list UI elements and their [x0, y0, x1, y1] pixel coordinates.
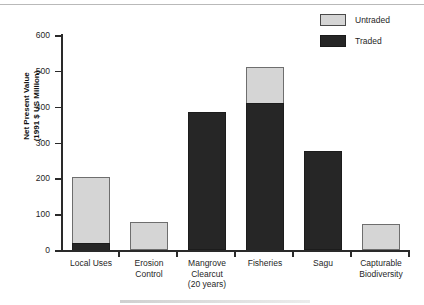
untraded-swatch-icon [320, 14, 346, 26]
chart-container: Untraded Traded Net Present Value (1991 … [0, 0, 424, 305]
x-axis-tick [292, 251, 294, 257]
bar-group[interactable] [72, 177, 110, 250]
x-axis-tick [408, 251, 410, 257]
y-axis-tick [55, 143, 62, 145]
plot-area: 0100200300400500600 [62, 35, 410, 250]
y-axis-tick [55, 35, 62, 37]
y-axis-tick [55, 107, 62, 109]
bar-segment-untraded[interactable] [246, 67, 284, 104]
y-axis-tick-label: 300 [36, 138, 50, 148]
x-axis-label: Erosion Control [120, 258, 178, 279]
bar-group-container [62, 35, 410, 250]
bar-segment-traded[interactable] [72, 243, 110, 250]
cropped-caption-remnant [120, 300, 310, 303]
x-axis-label: Local Uses [62, 258, 120, 269]
x-axis-label: Fisheries [236, 258, 294, 269]
legend-label-untraded: Untraded [355, 15, 390, 25]
y-axis-tick-label: 100 [36, 209, 50, 219]
x-axis-tick [234, 251, 236, 257]
x-axis-label: Mangrove Clearcut (20 years) [178, 258, 236, 290]
y-axis-tick-label: 400 [36, 102, 50, 112]
y-axis-tick-label: 600 [36, 30, 50, 40]
y-axis-tick [55, 250, 62, 252]
y-axis-tick-label: 200 [36, 173, 50, 183]
x-axis-tick [118, 251, 120, 257]
x-axis-line [61, 250, 410, 252]
y-axis-tick [55, 71, 62, 73]
x-axis-tick [350, 251, 352, 257]
bar-segment-traded[interactable] [188, 112, 226, 250]
bar-segment-untraded[interactable] [72, 177, 110, 243]
y-axis-tick [55, 214, 62, 216]
bar-group[interactable] [304, 151, 342, 250]
bar-group[interactable] [130, 222, 168, 250]
x-axis-label-group: Local UsesErosion ControlMangrove Clearc… [62, 258, 410, 300]
bar-segment-traded[interactable] [304, 151, 342, 250]
x-axis-label: Capturable Biodiversity [352, 258, 410, 279]
bar-group[interactable] [188, 112, 226, 250]
bar-group[interactable] [362, 224, 400, 250]
bar-segment-untraded[interactable] [130, 222, 168, 250]
page-top-rule [0, 4, 424, 5]
legend-item-untraded: Untraded [320, 14, 390, 26]
y-axis-tick [55, 178, 62, 180]
bar-segment-untraded[interactable] [362, 224, 400, 250]
bar-group[interactable] [246, 67, 284, 250]
y-axis-tick-label: 0 [45, 245, 50, 255]
bar-segment-traded[interactable] [246, 103, 284, 250]
x-axis-tick [176, 251, 178, 257]
x-axis-label: Sagu [294, 258, 352, 269]
y-axis-tick-label: 500 [36, 66, 50, 76]
